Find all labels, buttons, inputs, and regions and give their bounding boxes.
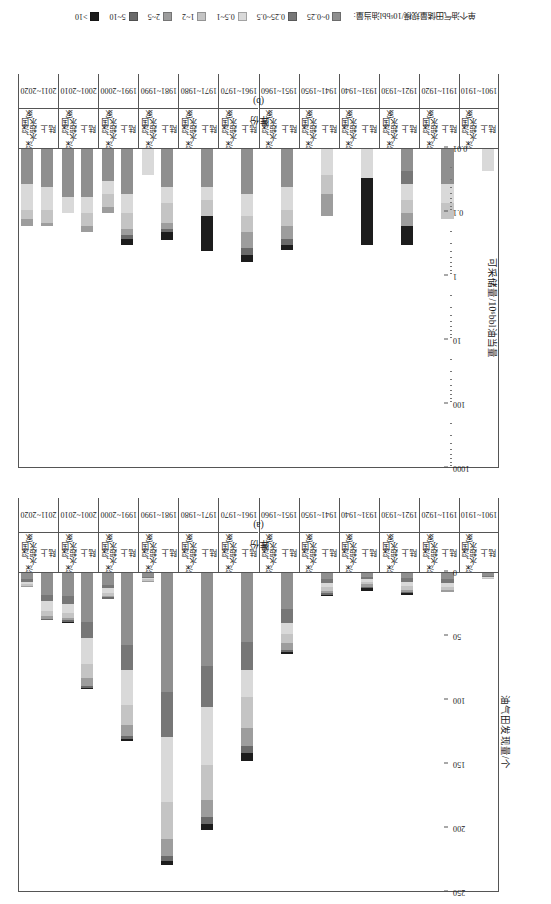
figure-root: 050100150200250 油气田发现量/个 陆上深水、超深水国家1901~… bbox=[0, 0, 551, 904]
bar-segment bbox=[241, 746, 253, 754]
bar-segment bbox=[142, 579, 154, 580]
bar-segment bbox=[21, 582, 33, 585]
y-tick-label: 150 bbox=[448, 760, 499, 769]
bar-segment bbox=[41, 611, 53, 616]
bar-segment bbox=[201, 765, 213, 800]
bar-segment bbox=[121, 149, 133, 194]
decade-group: 陆上深水、超深水国家1971~1980 bbox=[178, 498, 218, 572]
legend-item: 0.25~0.5 bbox=[257, 13, 297, 22]
stacked-bar bbox=[62, 149, 74, 213]
stacked-bar bbox=[121, 573, 133, 741]
bar-segment bbox=[41, 601, 53, 611]
decade-axis-label: 1981~1990 bbox=[139, 498, 178, 532]
bar-segment bbox=[81, 573, 93, 622]
stacked-bar bbox=[321, 149, 333, 216]
y-minor-tick bbox=[450, 273, 453, 274]
bar-segment bbox=[321, 587, 333, 591]
y-minor-tick bbox=[450, 262, 453, 263]
panel-b-y-axis-title: 可采储量/10⁶bbl油当量 bbox=[486, 258, 500, 358]
subgroup-label-deepwater: 深水、超深水国家 bbox=[340, 108, 360, 148]
subgroup-label-deepwater: 深水、超深水国家 bbox=[420, 532, 440, 572]
stacked-bar bbox=[241, 573, 253, 761]
subgroup-label-onshore: 陆上 bbox=[479, 532, 498, 572]
decade-group: 陆上深水、超深水国家2011~2020 bbox=[18, 498, 58, 572]
y-minor-tick bbox=[450, 390, 453, 391]
decade-group: 陆上深水、超深水国家1901~1910 bbox=[459, 498, 499, 572]
bar-segment bbox=[121, 229, 133, 235]
bar-segment bbox=[21, 584, 33, 585]
subgroup-label-onshore: 陆上 bbox=[479, 108, 498, 148]
bar-segment bbox=[281, 245, 293, 250]
decade-axis-label: 1991~2000 bbox=[99, 74, 138, 108]
decade-group: 陆上深水、超深水国家1981~1990 bbox=[138, 498, 178, 572]
subgroup-label-deepwater: 深水、超深水国家 bbox=[460, 108, 479, 148]
subgroup-label-onshore: 陆上 bbox=[199, 532, 219, 572]
decade-axis-label: 1941~1950 bbox=[300, 498, 339, 532]
legend-label: >10 bbox=[75, 13, 88, 22]
y-tick-label: 50 bbox=[448, 632, 499, 641]
decade-group: 陆上深水、超深水国家1931~1940 bbox=[339, 498, 379, 572]
panel-a-inner: 050100150200250 油气田发现量/个 陆上深水、超深水国家1901~… bbox=[18, 572, 499, 892]
bar-segment bbox=[102, 194, 114, 207]
decade-axis-label: 1941~1950 bbox=[300, 74, 339, 108]
stacked-bar bbox=[241, 149, 253, 262]
bar-segment bbox=[321, 175, 333, 194]
bar-segment bbox=[281, 634, 293, 643]
decade-group: 陆上深水、超深水国家1941~1950 bbox=[299, 498, 339, 572]
bar-segment bbox=[102, 181, 114, 194]
bar-segment bbox=[401, 590, 413, 593]
y-minor-tick bbox=[450, 209, 453, 210]
decade-axis-label: 1911~1920 bbox=[420, 498, 459, 532]
bar-segment bbox=[401, 582, 413, 586]
decade-axis-label: 1901~1910 bbox=[460, 74, 498, 108]
y-minor-tick bbox=[450, 167, 453, 168]
decade-group: 陆上深水、超深水国家1991~2000 bbox=[98, 74, 138, 148]
subgroup-label-onshore: 陆上 bbox=[279, 108, 299, 148]
bar-segment bbox=[121, 645, 133, 671]
stacked-bar bbox=[161, 149, 173, 240]
y-minor-tick bbox=[450, 193, 453, 194]
bar-segment bbox=[401, 592, 413, 593]
bar-segment bbox=[81, 678, 93, 686]
subgroup-label-onshore: 陆上 bbox=[439, 108, 459, 148]
bar-segment bbox=[121, 239, 133, 245]
bar-segment bbox=[201, 707, 213, 765]
bar-segment bbox=[401, 586, 413, 590]
subgroup-label-deepwater: 深水、超深水国家 bbox=[59, 532, 79, 572]
decade-axis-label: 2001~2010 bbox=[59, 74, 98, 108]
bar-segment bbox=[62, 149, 74, 197]
y-minor-tick bbox=[450, 359, 453, 360]
y-minor-tick bbox=[450, 270, 453, 271]
bar-segment bbox=[21, 149, 33, 184]
subgroup-label-deepwater: 深水、超深水国家 bbox=[420, 108, 440, 148]
bar-segment bbox=[121, 213, 133, 229]
stacked-bar bbox=[281, 149, 293, 250]
decade-group: 陆上深水、超深水国家1981~1990 bbox=[138, 74, 178, 148]
bar-segment bbox=[201, 187, 213, 200]
panel-a-bars bbox=[18, 573, 498, 892]
bar-segment bbox=[401, 593, 413, 594]
legend-label: 5~10 bbox=[109, 13, 125, 22]
stacked-bar bbox=[102, 573, 114, 599]
decade-group: 陆上深水、超深水国家1951~1960 bbox=[259, 498, 299, 572]
bar-segment bbox=[102, 597, 114, 598]
bar-segment bbox=[161, 861, 173, 865]
subgroup-label-deepwater: 深水、超深水国家 bbox=[99, 532, 119, 572]
legend-item: 2~5 bbox=[148, 13, 172, 22]
bar-segment bbox=[41, 149, 53, 187]
bar-segment bbox=[241, 573, 253, 642]
subgroup-label-onshore: 陆上 bbox=[159, 108, 179, 148]
decade-group: 陆上深水、超深水国家1961~1970 bbox=[218, 498, 258, 572]
bar-segment bbox=[201, 800, 213, 818]
decade-axis-label: 1911~1920 bbox=[420, 74, 459, 108]
y-minor-tick bbox=[450, 321, 453, 322]
bar-segment bbox=[361, 584, 373, 587]
bar-segment bbox=[401, 226, 413, 245]
bar-segment bbox=[161, 839, 173, 856]
legend-swatch-icon bbox=[238, 13, 247, 22]
stacked-bar bbox=[142, 149, 154, 175]
bar-segment bbox=[241, 728, 253, 746]
legend-item: 0.5~1 bbox=[216, 13, 246, 22]
legend-swatch-icon bbox=[90, 13, 99, 22]
bar-segment bbox=[241, 753, 253, 761]
